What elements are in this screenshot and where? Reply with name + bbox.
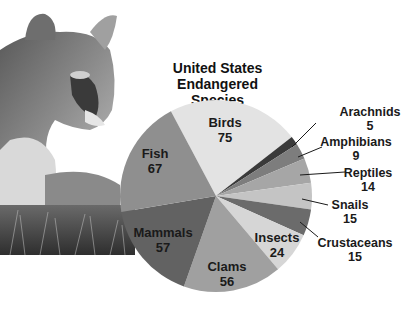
label-amphibians: Amphibians9 xyxy=(320,135,392,163)
pie-chart: Birds75 Fish67 Mammals57 Clams56 Insects… xyxy=(0,0,410,311)
label-arachnids: Arachnids5 xyxy=(339,105,400,133)
label-snails: Snails15 xyxy=(332,198,369,226)
label-crustaceans: Crustaceans15 xyxy=(317,236,392,264)
label-reptiles: Reptiles14 xyxy=(344,166,393,194)
